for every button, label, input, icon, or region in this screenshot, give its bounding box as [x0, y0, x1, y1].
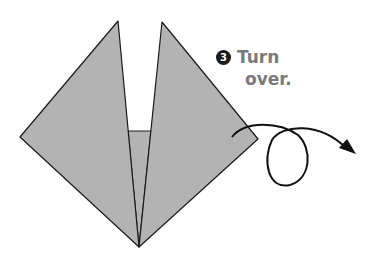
step-text-line2: over. — [216, 68, 292, 90]
left-flap — [20, 21, 139, 247]
arrowhead-icon — [339, 139, 356, 154]
step-text-line1: Turn — [237, 47, 279, 67]
step-instruction: 3Turn over. — [216, 46, 292, 90]
step-number-badge: 3 — [216, 50, 231, 65]
origami-diagram — [0, 0, 371, 264]
